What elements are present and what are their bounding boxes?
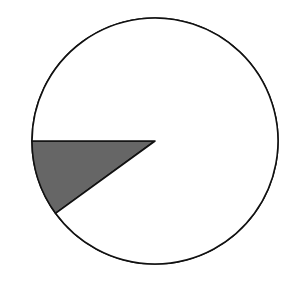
pie-chart <box>0 0 302 292</box>
pie-slice-2 <box>32 18 278 264</box>
